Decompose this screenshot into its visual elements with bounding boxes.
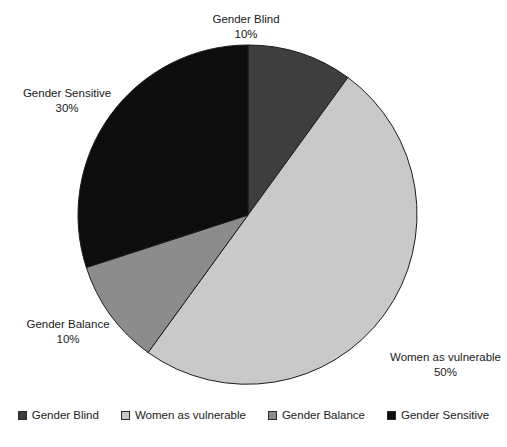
callout-gender-balance: Gender Balance 10% bbox=[26, 317, 109, 346]
callout-gender-blind: Gender Blind 10% bbox=[212, 12, 279, 41]
pie-chart-page: Gender Blind 10% Gender Sensitive 30% Ge… bbox=[0, 0, 507, 447]
legend-item-gender-blind: Gender Blind bbox=[18, 409, 99, 421]
legend-label-gender-blind: Gender Blind bbox=[32, 409, 99, 421]
callout-women-as-vulnerable-value: 50% bbox=[390, 365, 501, 380]
legend-label-gender-sensitive: Gender Sensitive bbox=[401, 409, 489, 421]
callout-gender-sensitive-label: Gender Sensitive bbox=[23, 86, 111, 101]
callout-gender-balance-label: Gender Balance bbox=[26, 317, 109, 332]
legend-item-women-as-vulnerable: Women as vulnerable bbox=[121, 409, 246, 421]
legend-label-gender-balance: Gender Balance bbox=[282, 409, 365, 421]
callout-gender-blind-label: Gender Blind bbox=[212, 12, 279, 27]
legend-swatch-gender-balance bbox=[268, 411, 277, 420]
callout-gender-blind-value: 10% bbox=[212, 27, 279, 42]
legend-swatch-gender-sensitive bbox=[387, 411, 396, 420]
callout-gender-sensitive: Gender Sensitive 30% bbox=[23, 86, 111, 115]
legend-label-women-as-vulnerable: Women as vulnerable bbox=[135, 409, 246, 421]
callout-women-as-vulnerable-label: Women as vulnerable bbox=[390, 350, 501, 365]
callout-gender-sensitive-value: 30% bbox=[23, 101, 111, 116]
pie-slice-group bbox=[78, 45, 417, 384]
callout-gender-balance-value: 10% bbox=[26, 332, 109, 347]
legend-item-gender-balance: Gender Balance bbox=[268, 409, 365, 421]
chart-legend: Gender BlindWomen as vulnerableGender Ba… bbox=[0, 409, 507, 421]
legend-swatch-gender-blind bbox=[18, 411, 27, 420]
legend-swatch-women-as-vulnerable bbox=[121, 411, 130, 420]
legend-item-gender-sensitive: Gender Sensitive bbox=[387, 409, 489, 421]
callout-women-as-vulnerable: Women as vulnerable 50% bbox=[390, 350, 501, 379]
